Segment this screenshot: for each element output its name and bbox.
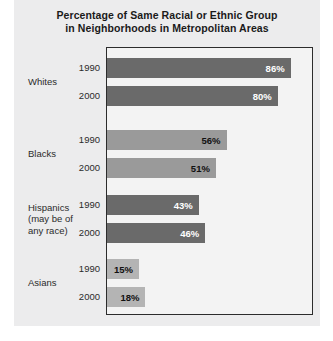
group-label: Whites: [28, 76, 57, 88]
chart-title-line-1: Percentage of Same Racial or Ethnic Grou…: [14, 9, 320, 22]
bar: 51%: [107, 158, 216, 178]
group-label-line: Asians: [28, 277, 57, 289]
bar: 43%: [107, 195, 199, 215]
bar: 86%: [107, 58, 291, 78]
group-label-line: Hispanics: [28, 202, 73, 214]
bar-value-label: 15%: [114, 264, 133, 275]
bar-value-label: 46%: [180, 228, 199, 239]
group-label: Asians: [28, 277, 57, 289]
group-label-line: Whites: [28, 76, 57, 88]
year-label: 1990: [56, 263, 100, 274]
bar-value-label: 86%: [266, 63, 285, 74]
group-label-line: any race): [28, 225, 73, 237]
bar: 15%: [107, 259, 139, 279]
group-label-line: (may be of: [28, 213, 73, 225]
bar: 56%: [107, 130, 227, 150]
year-label: 2000: [56, 291, 100, 302]
group-label-line: Blacks: [28, 148, 56, 160]
year-label: 1990: [56, 62, 100, 73]
bar-value-label: 43%: [174, 200, 193, 211]
bar-value-label: 51%: [191, 163, 210, 174]
bar: 46%: [107, 223, 205, 243]
chart-title: Percentage of Same Racial or Ethnic Grou…: [14, 9, 320, 35]
bar: 80%: [107, 86, 278, 106]
bar: 18%: [107, 287, 145, 307]
year-label: 1990: [56, 134, 100, 145]
bar-value-label: 18%: [120, 292, 139, 303]
year-label: 2000: [56, 90, 100, 101]
year-label: 2000: [56, 162, 100, 173]
bar-value-label: 80%: [253, 91, 272, 102]
bar-value-label: 56%: [202, 135, 221, 146]
group-label: Blacks: [28, 148, 56, 160]
chart-title-line-2: in Neighborhoods in Metropolitan Areas: [14, 22, 320, 35]
group-label: Hispanics(may be ofany race): [28, 202, 73, 237]
